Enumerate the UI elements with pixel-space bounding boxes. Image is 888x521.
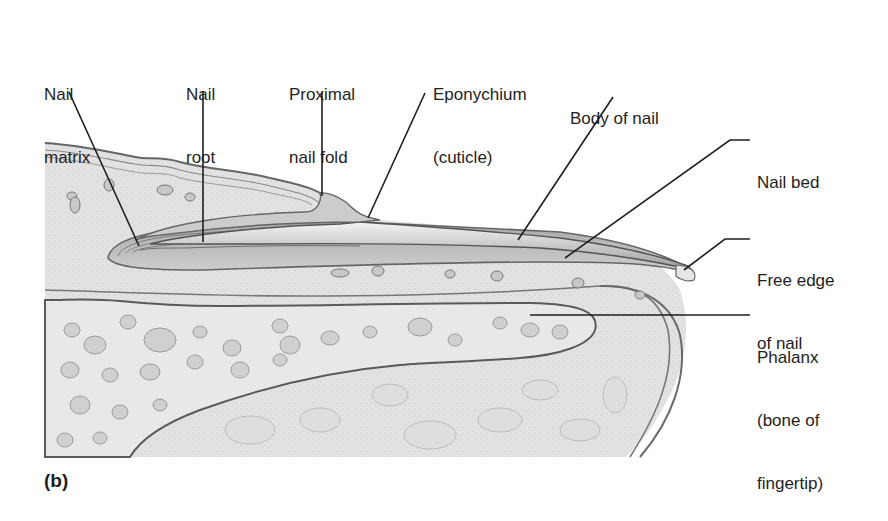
label-line: Nail — [44, 84, 90, 105]
panel-label: (b) — [44, 470, 68, 492]
label-line: nail fold — [289, 147, 355, 168]
label-line: (bone of — [757, 410, 823, 431]
label-line: Proximal — [289, 84, 355, 105]
label-line: Body of nail — [570, 108, 659, 129]
label-line: (cuticle) — [433, 147, 527, 168]
leader-free-edge — [684, 239, 750, 270]
label-line: matrix — [44, 147, 90, 168]
label-proximal-nail-fold: Proximal nail fold — [289, 42, 355, 210]
nail-anatomy-diagram: Nail matrix Nail root Proximal nail fold… — [0, 0, 888, 521]
label-nail-root: Nail root — [186, 42, 215, 210]
label-body-of-nail: Body of nail — [570, 66, 659, 171]
label-line: Nail — [186, 84, 215, 105]
label-nail-bed: Nail bed — [757, 130, 819, 235]
label-phalanx: Phalanx (bone of fingertip) — [757, 305, 823, 521]
label-line: Eponychium — [433, 84, 527, 105]
label-line: root — [186, 147, 215, 168]
label-line: Phalanx — [757, 347, 823, 368]
label-line: Free edge — [757, 270, 835, 291]
label-line: fingertip) — [757, 473, 823, 494]
label-nail-matrix: Nail matrix — [44, 42, 90, 210]
leader-eponychium — [368, 93, 425, 218]
label-eponychium: Eponychium (cuticle) — [433, 42, 527, 210]
label-line: Nail bed — [757, 172, 819, 193]
